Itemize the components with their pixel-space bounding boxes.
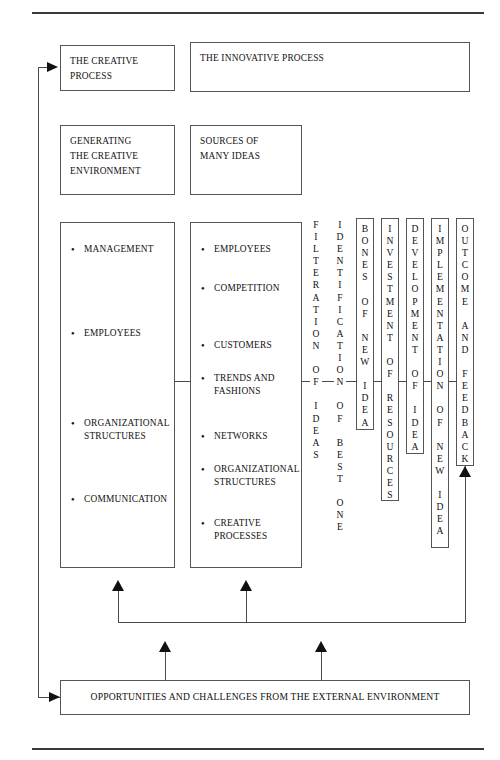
connector-filteration-to-identification bbox=[322, 381, 334, 382]
connector-development-to-implementation bbox=[424, 381, 432, 382]
feedback-loop-horizontal bbox=[118, 622, 465, 623]
stage-implementation-of-new-idea-label: I M P L E M E N T A T I O N O F N E W I … bbox=[432, 223, 448, 537]
stage-filteration: F I L T E R A T I O N O F I D E A S bbox=[308, 215, 324, 515]
list-item: ORGANIZATIONAL STRUCTURES bbox=[201, 463, 300, 489]
list-item: NETWORKS bbox=[201, 430, 268, 443]
stage-bones-of-new-idea: B O N E S O F N E W I D E A bbox=[356, 218, 374, 430]
feedback-arrow-to-creative-env-list bbox=[112, 580, 124, 591]
box-generating-creative-environment: GENERATING THE CREATIVE ENVIRONMENT bbox=[60, 125, 175, 195]
external-env-arrow-to-creative-env bbox=[159, 641, 171, 652]
stage-outcome-and-feedback: O U T C O M E A N D F E E D B A C K bbox=[456, 218, 474, 466]
connector-identification-to-bones bbox=[346, 381, 357, 382]
box-generating-creative-environment-label: GENERATING THE CREATIVE ENVIRONMENT bbox=[70, 134, 141, 179]
box-sources-of-many-ideas-label: SOURCES OF MANY IDEAS bbox=[200, 134, 260, 164]
box-creative-process: THE CREATIVE PROCESS bbox=[60, 45, 175, 91]
box-external-environment: OPPORTUNITIES AND CHALLENGES FROM THE EX… bbox=[60, 680, 470, 715]
connector-sources-to-filteration bbox=[302, 381, 310, 382]
stage-filteration-label: F I L T E R A T I O N O F I D E A S bbox=[308, 219, 324, 461]
stage-development-of-idea-label: D E V E L O P M E N T O F I D E A bbox=[407, 223, 423, 453]
diagram-canvas: THE CREATIVE PROCESS THE INNOVATIVE PROC… bbox=[0, 0, 500, 760]
stage-identification: I D E N T I F I C A T I O N O F B E S T … bbox=[332, 215, 348, 555]
list-item: COMPETITION bbox=[201, 282, 280, 295]
list-item: ORGANIZATIONAL STRUCTURES bbox=[71, 417, 170, 443]
box-sources-of-many-ideas: SOURCES OF MANY IDEAS bbox=[190, 125, 302, 195]
stage-bones-of-new-idea-label: B O N E S O F N E W I D E A bbox=[357, 223, 373, 429]
connector-implementation-to-outcome bbox=[449, 381, 457, 382]
stage-implementation-of-new-idea: I M P L E M E N T A T I O N O F N E W I … bbox=[431, 218, 449, 548]
stage-investment-of-resources: I N V E S T M E N T O F R E S O U R C E … bbox=[381, 218, 399, 501]
list-item: EMPLOYEES bbox=[201, 243, 271, 256]
feedback-arrow-to-idea-sources-list bbox=[240, 580, 252, 591]
list-box-idea-sources: EMPLOYEES COMPETITION CUSTOMERS TRENDS A… bbox=[190, 222, 302, 568]
external-env-arrow-to-idea-sources bbox=[315, 641, 327, 652]
list-item: EMPLOYEES bbox=[71, 327, 141, 340]
box-innovative-process-label: THE INNOVATIVE PROCESS bbox=[200, 51, 324, 66]
box-creative-process-label: THE CREATIVE PROCESS bbox=[70, 54, 138, 84]
list-item: CUSTOMERS bbox=[201, 339, 272, 352]
feedback-loop-vertical-from-outcome bbox=[465, 466, 466, 623]
stage-investment-of-resources-label: I N V E S T M E N T O F R E S O U R C E … bbox=[382, 223, 398, 501]
outer-loop-arrow-to-external-environment bbox=[49, 692, 60, 702]
list-item: CREATIVE PROCESSES bbox=[201, 517, 267, 543]
list-item: TRENDS AND FASHIONS bbox=[201, 372, 275, 398]
list-item: COMMUNICATION bbox=[71, 493, 167, 506]
list-box-creative-environment: MANAGEMENT EMPLOYEES ORGANIZATIONAL STRU… bbox=[60, 222, 175, 568]
list-item: MANAGEMENT bbox=[71, 243, 154, 256]
box-innovative-process: THE INNOVATIVE PROCESS bbox=[190, 42, 470, 92]
outer-loop-arrow-to-creative-process bbox=[47, 62, 58, 72]
bottom-rule bbox=[32, 748, 484, 750]
connector-investment-to-development bbox=[399, 381, 407, 382]
stage-development-of-idea: D E V E L O P M E N T O F I D E A bbox=[406, 218, 424, 454]
feedback-arrow-into-outcome bbox=[459, 466, 471, 477]
feedback-branch-to-idea-sources bbox=[246, 590, 247, 623]
feedback-branch-to-creative-env bbox=[118, 590, 119, 623]
stage-outcome-and-feedback-label: O U T C O M E A N D F E E D B A C K bbox=[457, 223, 473, 465]
external-env-line-to-creative-env bbox=[165, 650, 166, 680]
external-env-line-to-idea-sources bbox=[321, 650, 322, 680]
stage-identification-label: I D E N T I F I C A T I O N O F B E S T … bbox=[332, 219, 348, 533]
connector-env-to-sources bbox=[175, 381, 190, 382]
outer-loop-vertical-line bbox=[38, 67, 39, 698]
box-external-environment-label: OPPORTUNITIES AND CHALLENGES FROM THE EX… bbox=[61, 691, 469, 702]
top-rule bbox=[32, 12, 484, 14]
connector-bones-to-investment bbox=[374, 381, 382, 382]
